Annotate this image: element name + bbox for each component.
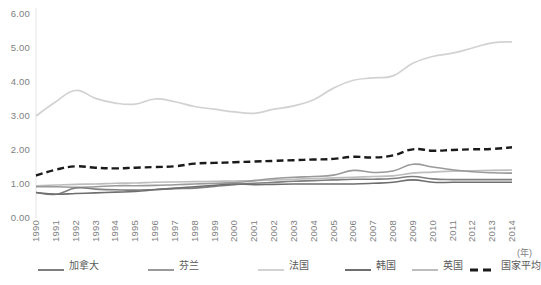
x-tick-label: 1996 [150,220,160,242]
x-tick-label: 2007 [368,220,378,242]
series-line [36,42,512,116]
legend-item[interactable]: 法国 [258,258,309,274]
x-tick-label: 2006 [348,220,358,242]
legend-item[interactable]: 英国 [412,258,463,274]
legend-swatch-icon [470,261,496,272]
legend-label: 英国 [443,260,463,272]
x-tick-label: 2002 [269,220,279,242]
x-tick-label: 2013 [487,220,497,242]
legend-swatch-icon [258,261,284,272]
x-tick-label: 1999 [210,220,220,242]
x-tick-label: 1995 [130,220,140,242]
x-tick-label: 2010 [428,220,438,242]
x-tick-label: 1998 [190,220,200,242]
x-tick-label: 2009 [408,220,418,242]
legend-label: 法国 [289,260,309,272]
legend-item[interactable]: 韩国 [345,258,396,274]
legend-item[interactable]: 加拿大 [38,258,99,274]
x-tick-label: 1990 [31,220,41,242]
x-tick-label: 2014 [507,220,517,242]
legend-item[interactable]: 芬兰 [148,258,199,274]
x-tick-label: 1993 [91,220,101,242]
x-tick-label: 2005 [329,220,339,242]
x-tick-label: 1994 [110,220,120,242]
x-tick-label: 2012 [467,220,477,242]
legend-swatch-icon [345,261,371,272]
legend-item[interactable]: 国家平均 [470,258,541,274]
legend-swatch-icon [38,261,64,272]
x-tick-label: 1992 [71,220,81,242]
legend-label: 国家平均 [501,260,541,272]
x-tick-label: 1991 [51,220,61,242]
chart-legend: 加拿大芬兰法国韩国英国国家平均 [0,258,519,280]
x-tick-label: 2004 [309,220,319,242]
legend-label: 加拿大 [69,260,99,272]
x-tick-label: 2000 [229,220,239,242]
x-tick-label: 2008 [388,220,398,242]
legend-label: 韩国 [376,260,396,272]
x-tick-label: 1997 [170,220,180,242]
x-tick-label: 2001 [249,220,259,242]
legend-swatch-icon [412,261,438,272]
x-tick-label: 2003 [289,220,299,242]
series-lines [36,42,512,195]
x-tick-label: 2011 [448,220,458,241]
legend-swatch-icon [148,261,174,272]
legend-label: 芬兰 [179,260,199,272]
x-axis: 1990199119921993199419951996199719981999… [0,220,519,262]
